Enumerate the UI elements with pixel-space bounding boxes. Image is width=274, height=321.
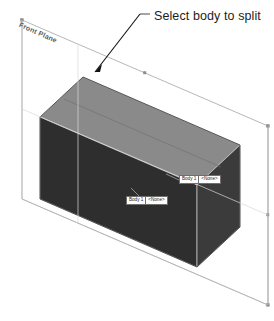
solid-body-box[interactable] [40,77,240,267]
body-callout[interactable]: Body 1 <None> [179,175,221,184]
body-callout-value: <None> [198,176,219,183]
body-callout[interactable]: Body 1 <None> [126,196,168,205]
screenshot-root: Front Plane Select body to split Body 1 … [0,0,274,321]
cad-scene-graphics [0,0,274,321]
body-callout-value: <None> [145,197,166,204]
annotation-label: Select body to split [154,9,261,23]
plane-handle-top-mid[interactable] [143,71,146,74]
body-callout-name: Body 1 [127,197,145,204]
cad-viewport[interactable]: Front Plane Select body to split Body 1 … [0,0,274,321]
body-callout-name: Body 1 [180,176,198,183]
